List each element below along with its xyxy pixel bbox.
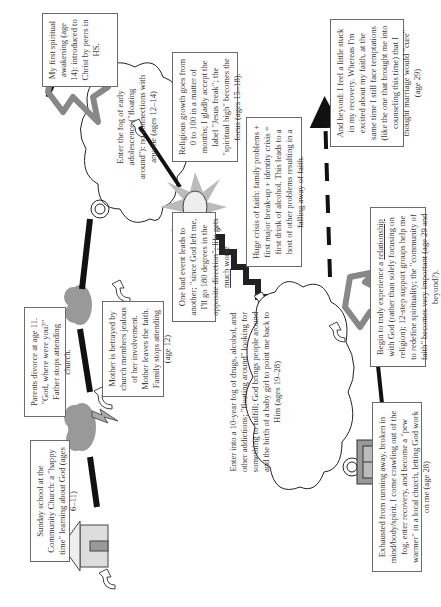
stage-text: Huge crisis of faith: family problems + … — [251, 125, 305, 259]
stage-text: Religious growth goes from 0 to 100 in a… — [177, 58, 242, 155]
stage-one-bad-event: One bad event leads to another; "since G… — [172, 212, 216, 322]
stage-fog-adolescence: Enter the fog of early adolescence ("flo… — [115, 72, 159, 182]
stage-first-awakening: My first spiritual awakening (age 14): i… — [42, 13, 118, 87]
stage-exhausted: Exhausted from running away, broken in m… — [372, 402, 422, 572]
stage-text: Parents divorce at age 11. "God, where w… — [29, 318, 72, 406]
stage-text: Enter into a 10-year fog of drugs, alcoh… — [228, 312, 282, 472]
stage-text: My first spiritual awakening (age 14): i… — [47, 19, 101, 81]
stage-parents-divorce: Parents divorce at age 11. "God, where w… — [24, 307, 66, 417]
stage-text: And beyond: I feel a little stuck in my … — [335, 25, 422, 140]
storm-cloud-icon — [64, 285, 92, 325]
stage-and-beyond: And beyond: I feel a little stuck in my … — [330, 19, 404, 147]
curved-arrow-icon — [112, 280, 130, 302]
stage-religious-growth: Religious growth goes from 0 to 100 in a… — [172, 52, 238, 162]
stage-text: Mother is betrayed by church members jea… — [107, 307, 172, 391]
path-segment — [90, 457, 97, 507]
storm-cloud-lightning-icon — [64, 403, 118, 451]
curved-arrow-icon — [99, 569, 115, 589]
path-segment — [82, 219, 90, 289]
stage-sunday-school: Sunday school at the Community Church: a… — [30, 440, 70, 562]
stage-mother-betrayed: Mother is betrayed by church members jea… — [102, 301, 164, 397]
stage-ten-year-fog: Enter into a 10-year fog of drugs, alcoh… — [228, 307, 283, 477]
stage-crisis-of-faith: Huge crisis of faith: family problems + … — [246, 117, 302, 267]
path-segment — [80, 329, 90, 392]
stage-text: Enter the fog of early adolescence ("flo… — [115, 75, 158, 179]
stage-relationship: Begin to truly experience a relationship… — [370, 207, 426, 367]
